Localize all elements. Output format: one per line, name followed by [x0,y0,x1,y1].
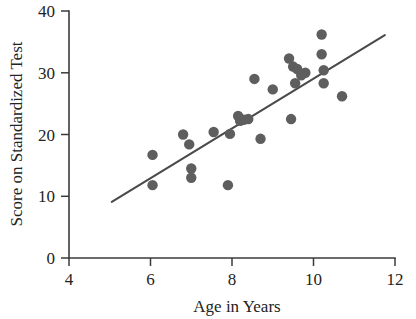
data-point [147,150,157,160]
data-point [184,139,194,149]
data-point [223,180,233,190]
scatter-plot-figure: 40 30 20 10 0 4 6 8 10 12 Age in Years S… [0,0,416,319]
x-axis-ticks [69,258,395,266]
x-tick-label-8: 8 [228,270,237,289]
x-tick-label-6: 6 [146,270,155,289]
x-tick-label-10: 10 [305,270,322,289]
data-point [300,68,310,78]
data-point [249,74,259,84]
y-tick-label-20: 20 [38,126,55,145]
data-point [268,84,278,94]
y-axis-title: Score on Standardized Test [7,41,26,226]
data-point [243,114,253,124]
y-tick-label-10: 10 [38,187,55,206]
data-point [316,29,326,39]
x-axis-title: Age in Years [193,297,280,316]
y-tick-label-0: 0 [47,249,56,268]
data-point [225,129,235,139]
data-point [186,173,196,183]
data-point [147,180,157,190]
x-tick-label-4: 4 [65,270,74,289]
data-point [178,129,188,139]
x-tick-label-12: 12 [387,270,404,289]
data-point [186,163,196,173]
data-point [316,49,326,59]
data-point [255,134,265,144]
y-tick-label-30: 30 [38,64,55,83]
data-point [337,91,347,101]
data-point [318,78,328,88]
data-point [208,127,218,137]
chart-canvas: 40 30 20 10 0 4 6 8 10 12 Age in Years S… [0,0,416,319]
y-axis-ticks [61,11,69,258]
data-point [318,65,328,75]
y-tick-label-40: 40 [38,2,55,21]
data-point [286,114,296,124]
data-point-group [147,29,347,190]
